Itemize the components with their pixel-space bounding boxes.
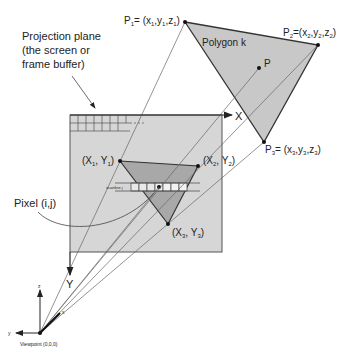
y-axis-label: Y — [66, 278, 74, 290]
p-dot — [257, 66, 261, 70]
p2-label: P2=(x2,y2,z2) — [283, 27, 336, 39]
viewpoint-y-label: y — [8, 330, 11, 336]
view-direction — [40, 313, 60, 333]
viewpoint-z-label: z — [38, 283, 41, 289]
v3-dot — [166, 222, 170, 226]
v1-dot — [118, 159, 122, 163]
scanline-label: scanline j — [106, 185, 123, 190]
p1-label: P1= (x1,y1,z1) — [124, 15, 180, 27]
projection-plane-label-2: (the screen or — [22, 44, 90, 56]
viewpoint-label: Viewpoint (0,0,0) — [20, 341, 58, 347]
p1-dot — [183, 20, 187, 24]
projection-plane-label-3: frame buffer) — [22, 58, 85, 70]
plane-pointer — [72, 76, 95, 108]
x-axis-label: X — [235, 110, 243, 122]
p2-dot — [316, 43, 320, 47]
p-label: P — [264, 58, 271, 69]
v2-dot — [196, 164, 200, 168]
p3-label: P3= (x3,y3,z3) — [265, 144, 321, 156]
polygon-label: Polygon k — [202, 37, 247, 48]
projection-plane-label-1: Projection plane — [22, 30, 101, 42]
v2-label: (X2, Y2) — [203, 155, 235, 167]
viewpoint-dot — [38, 331, 42, 335]
pixel-label: Pixel (i,j) — [14, 197, 56, 209]
rasterization-diagram: Projection plane (the screen or frame bu… — [0, 0, 348, 357]
